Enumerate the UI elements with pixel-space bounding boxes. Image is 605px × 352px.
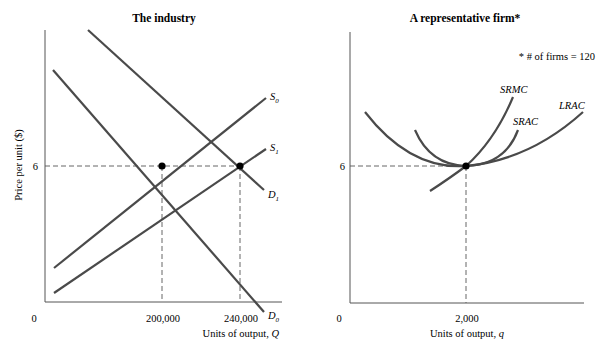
firm-title: A representative firm* <box>410 12 521 25</box>
label-d0: D0 <box>267 310 280 324</box>
label-srmc: SRMC <box>500 84 528 95</box>
firm-panel: A representative firm* * # of firms = 12… <box>336 12 595 339</box>
demand-curve-d0 <box>53 70 264 312</box>
industry-title: The industry <box>132 12 196 25</box>
firm-y-tick-6: 6 <box>340 161 345 172</box>
label-s1: S1 <box>270 142 279 156</box>
supply-curve-s1 <box>54 149 266 293</box>
label-lrac: LRAC <box>558 100 586 111</box>
firm-count-note: * # of firms = 120 <box>519 51 595 62</box>
industry-panel: The industry Price per unit ($) S0 S1 D1… <box>13 12 282 339</box>
label-d1: D1 <box>267 189 279 203</box>
srac-curve <box>415 130 518 166</box>
industry-y-tick-6: 6 <box>33 161 38 172</box>
firm-x-tick-2000: 2,000 <box>455 313 479 324</box>
industry-x-tick-240000: 240,000 <box>224 313 258 324</box>
industry-x-label: Units of output, Q <box>203 328 280 339</box>
chart-canvas: The industry Price per unit ($) S0 S1 D1… <box>0 0 605 352</box>
srmc-curve <box>430 97 513 191</box>
industry-origin: 0 <box>31 313 36 324</box>
firm-equilibrium-point <box>462 162 469 169</box>
firm-origin: 0 <box>336 313 341 324</box>
supply-curve-s0 <box>54 98 266 268</box>
equilibrium-point-2 <box>236 162 243 169</box>
label-srac: SRAC <box>513 116 539 127</box>
industry-x-tick-200000: 200,000 <box>146 313 180 324</box>
equilibrium-point-1 <box>158 162 165 169</box>
label-s0: S0 <box>270 91 279 105</box>
industry-y-label: Price per unit ($) <box>13 129 25 201</box>
firm-x-label: Units of output, q <box>430 328 504 339</box>
